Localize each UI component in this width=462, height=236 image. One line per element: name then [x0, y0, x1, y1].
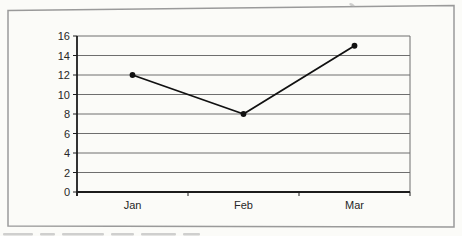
- cropped-caption-remnant: [3, 233, 33, 236]
- x-axis-label: Jan: [124, 199, 142, 211]
- data-point-marker: [352, 43, 358, 49]
- line-chart: 0246810121416JanFebMar: [0, 0, 462, 236]
- cropped-caption-remnant: [111, 233, 134, 236]
- cropped-caption-remnant: [183, 233, 200, 236]
- x-axis-label: Mar: [345, 199, 364, 211]
- x-axis-label: Feb: [234, 199, 253, 211]
- y-axis-label: 0: [64, 186, 70, 198]
- data-point-marker: [130, 72, 136, 78]
- y-axis-label: 12: [58, 69, 70, 81]
- scanned-chart-page: 0246810121416JanFebMar: [0, 0, 462, 236]
- cropped-caption-remnant: [141, 233, 176, 236]
- y-axis-label: 10: [58, 89, 70, 101]
- y-axis-label: 8: [64, 108, 70, 120]
- y-axis-label: 4: [64, 147, 70, 159]
- cropped-caption-remnant: [40, 233, 55, 236]
- y-axis-label: 14: [58, 50, 70, 62]
- y-axis-label: 16: [58, 30, 70, 42]
- y-axis-label: 6: [64, 128, 70, 140]
- y-axis-label: 2: [64, 167, 70, 179]
- data-point-marker: [241, 111, 247, 117]
- cropped-caption-remnant: [62, 233, 104, 236]
